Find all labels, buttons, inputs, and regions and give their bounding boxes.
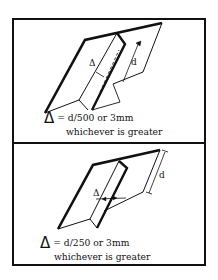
delta-label-top: Δ	[89, 58, 96, 68]
note-bottom: whichever is greater	[54, 251, 150, 262]
dimension-label-bottom: d	[159, 170, 165, 180]
dimension-label-top: d	[131, 57, 137, 67]
caption-top-formula: Δ = d/500 or 3mm	[44, 113, 133, 123]
formula-top: = d/500 or 3mm	[57, 112, 133, 123]
formula-bottom: = d/250 or 3mm	[53, 237, 129, 248]
caption-top-note: whichever is greater	[66, 127, 162, 137]
delta-label-bottom: Δ	[93, 188, 100, 198]
delta-symbol-top: Δ	[44, 109, 54, 127]
top-sheet-figure	[45, 23, 162, 113]
delta-symbol-bottom: Δ	[40, 234, 50, 252]
bottom-sheet-figure	[58, 150, 168, 229]
caption-bottom-note: whichever is greater	[54, 252, 150, 262]
note-top: whichever is greater	[66, 126, 162, 137]
caption-bottom-formula: Δ = d/250 or 3mm	[40, 238, 129, 248]
